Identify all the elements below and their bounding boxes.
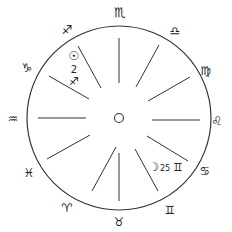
house-line-aries (92, 147, 116, 191)
horoscope-chart: ♏ ♎ ♍ ♌ ♋ ♊ ♉ ♈ ♓ ♒ ♑ ♐ ☉ 2 ♐ ☽ 25 ♊ (0, 0, 232, 232)
sign-sagittarius-icon: ♐ (62, 23, 73, 37)
house-division-lines (38, 38, 200, 201)
sun-icon: ☉ (69, 49, 80, 63)
sign-libra-icon: ♎ (170, 24, 181, 38)
house-line-pisces (47, 135, 90, 159)
sun-degree: 2 (71, 64, 77, 75)
sign-taurus-icon: ♉ (114, 215, 125, 229)
sign-cancer-icon: ♋ (200, 164, 211, 178)
house-line-virgo (148, 77, 190, 101)
sign-capricorn-icon: ♑ (22, 61, 33, 75)
sign-gemini-icon: ♊ (165, 203, 176, 217)
center-marker (115, 114, 124, 123)
house-line-cancer (147, 136, 188, 161)
planet-moon: ☽ 25 ♊ (149, 160, 183, 174)
sign-aries-icon: ♈ (62, 201, 73, 215)
sign-virgo-icon: ♍ (201, 64, 212, 78)
sign-pisces-icon: ♓ (24, 166, 35, 180)
moon-icon: ☽ (149, 160, 160, 174)
moon-sign-icon: ♊ (173, 161, 183, 174)
house-line-sagittarius (78, 46, 101, 88)
sign-aquarius-icon: ♒ (8, 112, 19, 126)
sign-leo-icon: ♌ (212, 114, 223, 128)
moon-degree: 25 (160, 164, 170, 173)
sign-scorpio-icon: ♏ (114, 5, 126, 20)
planet-sun: ☉ 2 ♐ (69, 49, 80, 88)
house-line-libra (136, 45, 159, 87)
sun-sign-icon: ♐ (69, 75, 79, 88)
